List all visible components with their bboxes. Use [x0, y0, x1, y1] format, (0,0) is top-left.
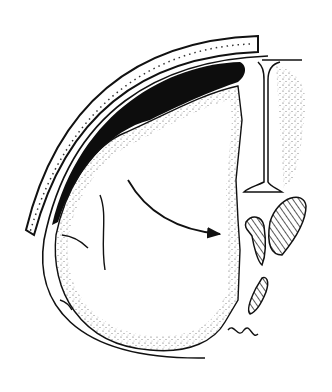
ventricles: [245, 197, 306, 314]
brain-illustration: [0, 0, 332, 392]
falx: [244, 62, 306, 192]
